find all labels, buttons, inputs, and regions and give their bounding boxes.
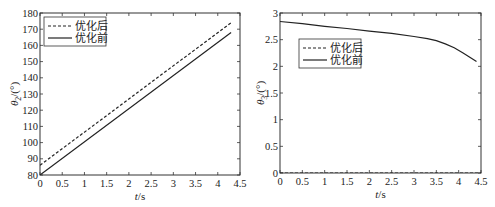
x-tick-label: 0 xyxy=(277,176,282,187)
x-axis-label: t/s xyxy=(375,188,385,200)
x-tick-label: 1.5 xyxy=(340,176,353,187)
plot-frame xyxy=(280,13,481,173)
y-tick-label: 140 xyxy=(22,72,38,83)
x-tick-label: 3.5 xyxy=(189,178,202,189)
x-tick-label: 0 xyxy=(37,178,42,189)
x-tick-label: 2 xyxy=(367,176,372,187)
y-tick-label: 2 xyxy=(273,61,278,72)
legend: 优化后优化前 xyxy=(299,39,363,68)
x-tick-label: 1 xyxy=(322,176,327,187)
y-tick-label: 160 xyxy=(22,40,38,51)
legend-entry: 优化前 xyxy=(75,31,108,45)
y-tick-label: 0 xyxy=(273,168,278,179)
x-tick-label: 4.5 xyxy=(233,178,246,189)
y-tick-label: 80 xyxy=(28,170,39,181)
y-tick-label: 170 xyxy=(22,24,38,35)
x-tick-label: 3 xyxy=(411,176,416,187)
legend: 优化后优化前 xyxy=(44,17,108,46)
x-tick-label: 4 xyxy=(215,178,221,189)
x-tick-label: 0.5 xyxy=(56,178,69,189)
y-tick-label: 2.5 xyxy=(265,34,278,45)
x-axis-label: t/s xyxy=(135,190,145,202)
y-tick-label: 1 xyxy=(273,114,278,125)
x-tick-label: 4.5 xyxy=(474,176,487,187)
y-tick-label: 90 xyxy=(28,153,39,164)
y-tick-label: 120 xyxy=(22,105,38,116)
x-tick-label: 2.5 xyxy=(385,176,398,187)
figure-canvas: 00.511.522.533.544.580901001101201301401… xyxy=(0,0,495,207)
legend-entry: 优化后 xyxy=(75,19,108,33)
chart-1: 00.511.522.533.544.580901001101201301401… xyxy=(8,8,247,203)
y-tick-label: 100 xyxy=(22,137,38,148)
x-tick-label: 4 xyxy=(456,176,462,187)
y-tick-label: 0.5 xyxy=(265,141,278,152)
chart-2: 00.511.522.533.544.500.511.522.53t/sθ3/(… xyxy=(254,8,488,201)
y-tick-label: 110 xyxy=(23,121,38,132)
y-tick-label: 130 xyxy=(22,89,38,100)
x-tick-label: 1 xyxy=(82,178,87,189)
legend-entry: 优化后 xyxy=(330,41,363,55)
x-tick-label: 0.5 xyxy=(296,176,309,187)
y-axis-label: θ2/(°) xyxy=(8,82,23,107)
x-tick-label: 3 xyxy=(171,178,176,189)
series-line-original xyxy=(40,32,231,175)
y-tick-label: 3 xyxy=(273,8,278,19)
y-tick-label: 180 xyxy=(22,8,38,19)
x-tick-label: 1.5 xyxy=(100,178,113,189)
x-tick-label: 2 xyxy=(126,178,131,189)
y-tick-label: 150 xyxy=(22,56,38,67)
x-tick-label: 3.5 xyxy=(430,176,443,187)
x-tick-label: 2.5 xyxy=(145,178,158,189)
legend-entry: 优化前 xyxy=(330,53,363,67)
